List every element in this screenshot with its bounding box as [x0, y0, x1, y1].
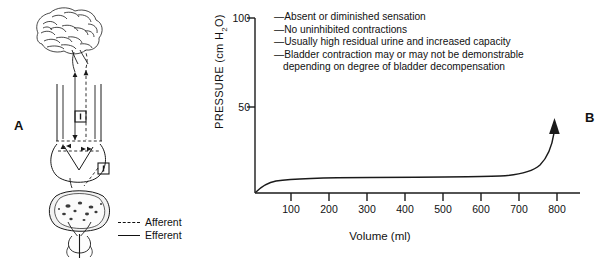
afferent-tract [85, 50, 87, 140]
x-axis-ticks [291, 193, 557, 201]
bladder-illustration [49, 191, 109, 258]
legend-label-efferent: Efferent [145, 229, 182, 242]
chart-plot-area [200, 0, 609, 260]
sacral-cord [51, 144, 106, 182]
afferent-line-key [118, 222, 140, 224]
efferent-line-key [118, 235, 140, 237]
curve-arrowhead-icon [549, 118, 560, 134]
sacral-center-icon [98, 163, 109, 174]
panel-a-label: A [14, 118, 24, 133]
panel-b-cystometrogram: B PRESSURE (cm H2O) Volume (ml) —Absent … [200, 0, 609, 260]
legend-item-efferent: Efferent [118, 229, 182, 242]
brain-icon [37, 8, 102, 64]
efferent-tract [63, 72, 95, 148]
legend-label-afferent: Afferent [145, 216, 182, 229]
panel-a-anatomy: A [0, 0, 200, 260]
sympathetic-center-icon [75, 111, 86, 122]
axis-lines [255, 18, 580, 193]
spinal-cord [57, 84, 101, 141]
pelvic-efferent [70, 178, 72, 188]
legend: Afferent Efferent [118, 216, 182, 242]
legend-item-afferent: Afferent [118, 216, 182, 229]
pelvic-afferent [84, 168, 98, 186]
pressure-curve [256, 133, 554, 192]
y-axis-ticks [247, 18, 255, 107]
afferent-arrowhead-up [84, 70, 89, 75]
figure-container: A [0, 0, 609, 260]
